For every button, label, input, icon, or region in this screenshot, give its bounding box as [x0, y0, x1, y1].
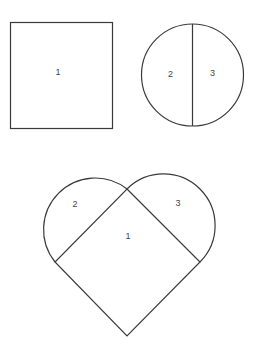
- heart-figure: 1 2 3: [44, 174, 216, 336]
- circle-right-label: 3: [210, 68, 215, 78]
- square-outline: [11, 23, 113, 129]
- heart-center-label: 1: [125, 231, 130, 241]
- circle-figure: 2 3: [142, 24, 244, 126]
- square-label: 1: [55, 67, 60, 77]
- shapes-diagram: 1 2 3 1 2 3: [0, 0, 257, 359]
- square-figure: 1: [11, 23, 113, 129]
- heart-left-lobe: [44, 178, 127, 262]
- heart-left-lobe-label: 2: [72, 199, 77, 209]
- heart-right-lobe: [127, 174, 215, 262]
- circle-left-label: 2: [168, 69, 173, 79]
- heart-diamond: [55, 189, 200, 336]
- heart-right-lobe-label: 3: [175, 198, 180, 208]
